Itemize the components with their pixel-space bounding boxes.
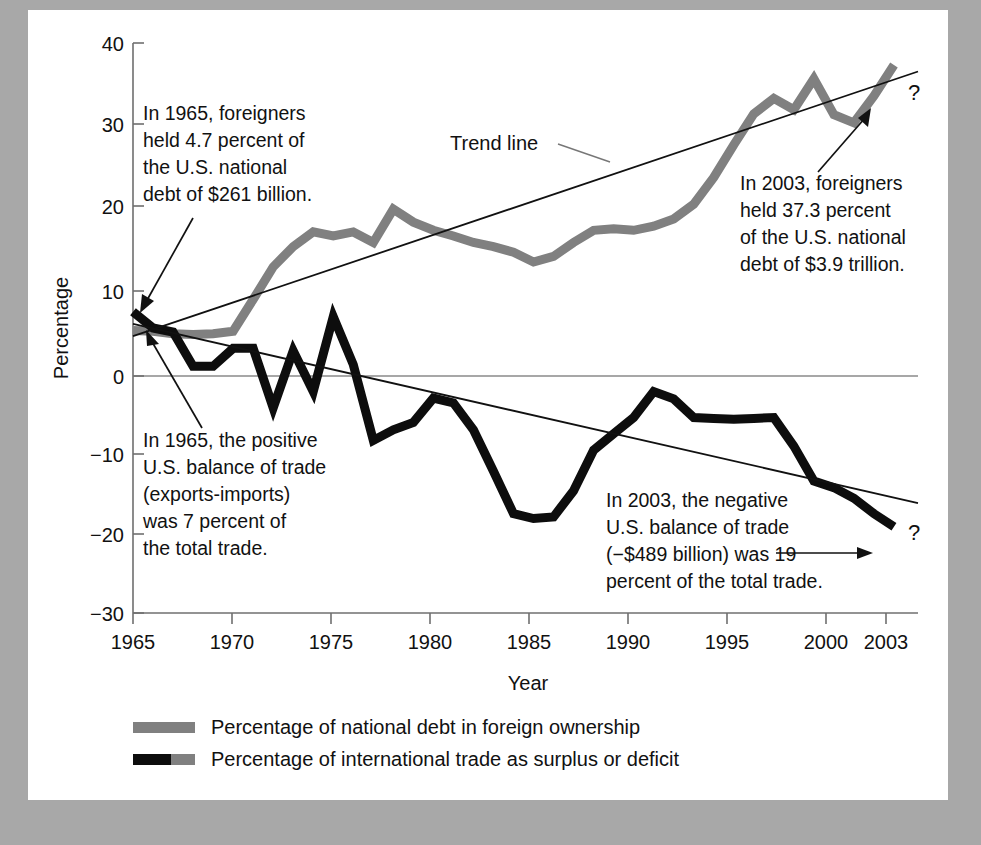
trend-line-callout: Trend line — [450, 132, 610, 162]
figure-card: 40 30 20 10 0 −10 −20 −30 1965 1970 1975… — [28, 10, 948, 800]
debt-future-question-icon: ? — [908, 80, 920, 105]
y-tick-label-minus-30: −30 — [90, 603, 124, 625]
annotation-trade-2003-line-1: U.S. balance of trade — [606, 516, 789, 538]
annotation-debt-2003-line-3: debt of $3.9 trillion. — [740, 253, 905, 275]
annotation-debt-1965-arrow-head — [140, 294, 154, 313]
y-tick-label-0: 0 — [113, 366, 124, 388]
annotation-trade-1965-line-2: (exports-imports) — [143, 483, 290, 505]
y-axis-title: Percentage — [50, 277, 72, 379]
annotation-trade-2003-line-3: percent of the total trade. — [606, 570, 823, 592]
trade-future-question-icon: ? — [908, 520, 920, 545]
annotation-debt-2003-line-2: of the U.S. national — [740, 226, 906, 248]
annotation-debt-1965-line-3: debt of $261 billion. — [143, 183, 312, 205]
annotation-debt-1965-line-2: the U.S. national — [143, 156, 287, 178]
x-tick-label-1970: 1970 — [210, 631, 255, 653]
annotation-debt-2003-arrow-shaft — [818, 118, 865, 172]
legend-label-1: Percentage of international trade as sur… — [211, 748, 679, 770]
y-tick-label-minus-10: −10 — [90, 444, 124, 466]
y-tick-label-40: 40 — [102, 33, 124, 55]
y-tick-label-30: 30 — [102, 114, 124, 136]
x-tick-label-1975: 1975 — [309, 631, 354, 653]
x-tick-label-2000: 2000 — [804, 631, 849, 653]
x-tick-label-1965: 1965 — [111, 631, 156, 653]
x-tick-label-2003: 2003 — [864, 631, 909, 653]
y-tick-label-minus-20: −20 — [90, 524, 124, 546]
annotation-trade-2003: In 2003, the negative U.S. balance of tr… — [606, 489, 873, 592]
annotation-trade-1965-line-0: In 1965, the positive — [143, 429, 318, 451]
annotation-debt-1965: In 1965, foreigners held 4.7 percent of … — [140, 102, 312, 313]
legend-swatch-1-dark — [133, 754, 171, 765]
y-tick-labels: 40 30 20 10 0 −10 −20 −30 — [90, 33, 124, 625]
annotation-debt-2003-line-0: In 2003, foreigners — [740, 172, 903, 194]
annotation-trade-1965-line-4: the total trade. — [143, 537, 268, 559]
y-tick-label-10: 10 — [102, 281, 124, 303]
annotation-debt-2003-line-1: held 37.3 percent — [740, 199, 891, 221]
annotation-trade-1965-arrow-shaft — [151, 340, 202, 428]
x-axis-title: Year — [508, 672, 549, 694]
annotation-trade-1965-line-1: U.S. balance of trade — [143, 456, 326, 478]
annotation-trade-1965-line-3: was 7 percent of — [142, 510, 287, 532]
x-tick-label-1990: 1990 — [606, 631, 651, 653]
annotation-trade-2003-line-2: (−$489 billion) was 19 — [606, 543, 796, 565]
legend-label-0: Percentage of national debt in foreign o… — [211, 716, 640, 738]
chart-legend: Percentage of national debt in foreign o… — [133, 716, 679, 770]
x-tick-labels: 1965 1970 1975 1980 1985 1990 1995 2000 … — [111, 631, 909, 653]
annotation-trade-2003-arrow-head — [857, 547, 873, 559]
annotation-debt-1965-line-0: In 1965, foreigners — [143, 102, 306, 124]
trend-line-label: Trend line — [450, 132, 538, 154]
legend-swatch-0 — [133, 722, 195, 733]
x-tick-label-1985: 1985 — [507, 631, 552, 653]
annotation-debt-2003: In 2003, foreigners held 37.3 percent of… — [740, 108, 906, 275]
annotation-debt-1965-line-1: held 4.7 percent of — [143, 129, 305, 151]
x-tick-label-1980: 1980 — [408, 631, 453, 653]
annotation-trade-2003-line-0: In 2003, the negative — [606, 489, 788, 511]
y-tick-label-20: 20 — [102, 196, 124, 218]
trend-line-leader — [558, 144, 610, 162]
chart-canvas: 40 30 20 10 0 −10 −20 −30 1965 1970 1975… — [28, 10, 948, 800]
x-tick-label-1995: 1995 — [705, 631, 750, 653]
annotation-debt-1965-arrow-shaft — [146, 218, 193, 302]
legend-swatch-1-light — [171, 754, 195, 765]
page-bottom-strip — [0, 800, 981, 845]
